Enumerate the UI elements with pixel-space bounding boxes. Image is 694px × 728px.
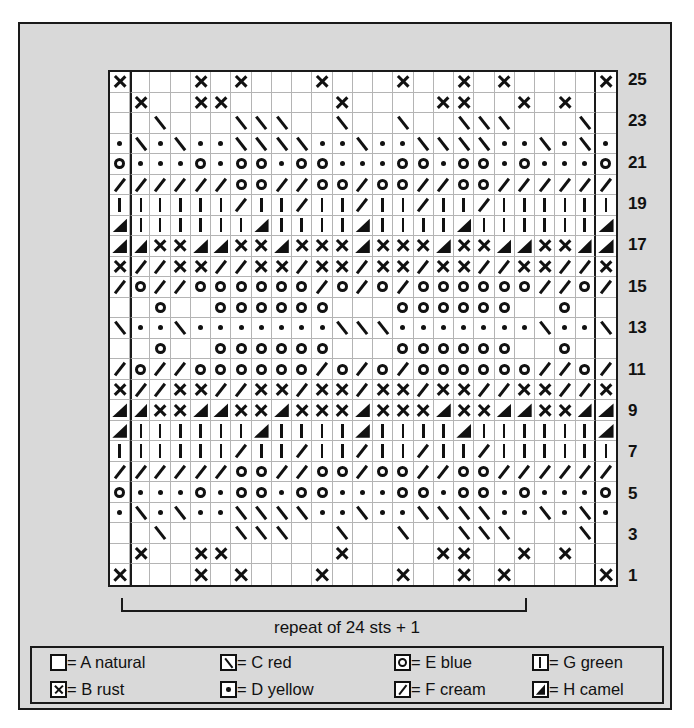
grid-cell-r6-c23: [555, 462, 575, 483]
backslash-icon: [474, 134, 493, 154]
grid-cell-r21-c9: [272, 154, 292, 175]
backslash-icon: [272, 523, 291, 543]
cross-x-icon: [231, 564, 250, 585]
vertical-bar-icon: [110, 441, 129, 461]
dot-icon: [555, 134, 574, 154]
grid-cell-r1-c18: [454, 564, 474, 585]
grid-cell-r13-c18: [454, 318, 474, 339]
grid-cell-r12-c12: [333, 339, 353, 360]
grid-cell-r21-c16: [414, 154, 434, 175]
grid-cell-r6-c19: [474, 462, 494, 483]
grid-cell-r4-c5: [191, 503, 211, 524]
grid-cell-r5-c21: [515, 482, 535, 503]
grid-cell-r6-c17: [434, 462, 454, 483]
forward-slash-icon: [231, 195, 250, 215]
grid-cell-r18-c13: [353, 216, 373, 237]
grid-cell-r8-c17: [434, 421, 454, 442]
grid-cell-r11-c2: [130, 359, 150, 380]
grid-cell-r14-c23: [555, 298, 575, 319]
dot-icon: [333, 482, 352, 502]
vertical-bar-icon: [393, 441, 412, 461]
open-circle-icon: [211, 298, 230, 318]
grid-cell-r4-c11: [312, 503, 332, 524]
grid-cell-r10-c12: [333, 380, 353, 401]
grid-cell-r8-c1: [110, 421, 130, 442]
vertical-bar-icon: [596, 195, 616, 215]
grid-cell-r20-c17: [434, 175, 454, 196]
grid-cell-r19-c16: [414, 195, 434, 216]
cross-x-icon: [292, 236, 311, 256]
grid-cell-r22-c18: [454, 134, 474, 155]
grid-cell-r14-c5: [191, 298, 211, 319]
grid-cell-r23-c20: [495, 113, 515, 134]
open-circle-icon: [252, 462, 271, 482]
grid-cell-r16-c6: [211, 257, 231, 278]
dot-icon: [495, 318, 514, 338]
grid-cell-r6-c14: [373, 462, 393, 483]
forward-slash-icon: [576, 257, 594, 277]
filled-triangle-icon: [596, 421, 616, 441]
grid-cell-r3-c4: [171, 523, 191, 544]
backslash-icon: [252, 113, 271, 133]
grid-cell-r18-c24: [576, 216, 596, 237]
grid-cell-r12-c16: [414, 339, 434, 360]
cross-x-icon: [110, 257, 129, 277]
grid-cell-r13-c14: [373, 318, 393, 339]
grid-cell-r17-c21: [515, 236, 535, 257]
cross-x-icon: [231, 400, 250, 420]
grid-cell-r15-c5: [191, 277, 211, 298]
grid-cell-r10-c17: [434, 380, 454, 401]
vertical-bar-icon: [231, 421, 250, 441]
grid-cell-r18-c22: [535, 216, 555, 237]
grid-cell-r22-c20: [495, 134, 515, 155]
grid-cell-r12-c17: [434, 339, 454, 360]
filled-triangle-icon: [211, 400, 230, 420]
open-circle-icon: [132, 277, 149, 297]
vertical-bar-icon: [555, 216, 574, 236]
grid-cell-r1-c1: [110, 564, 130, 585]
grid-cell-r17-c10: [292, 236, 312, 257]
cross-x-icon: [495, 72, 514, 92]
open-circle-icon: [110, 154, 129, 174]
forward-slash-icon: [535, 359, 554, 379]
legend-item-c: = C red: [220, 653, 292, 672]
grid-cell-r2-c4: [171, 544, 191, 565]
grid-cell-r25-c25: [596, 72, 616, 93]
open-circle-icon: [191, 154, 210, 174]
vertical-bar-icon: [191, 421, 210, 441]
grid-cell-r10-c18: [454, 380, 474, 401]
grid-cell-r9-c22: [535, 400, 555, 421]
grid-cell-r11-c22: [535, 359, 555, 380]
backslash-icon: [333, 523, 352, 543]
grid-cell-r10-c6: [211, 380, 231, 401]
open-circle-icon: [495, 339, 514, 359]
forward-slash-icon: [555, 380, 574, 400]
forward-slash-icon: [171, 277, 190, 297]
open-circle-icon: [393, 175, 412, 195]
legend-label-b: = B rust: [67, 680, 124, 699]
grid-cell-r19-c1: [110, 195, 130, 216]
grid-cell-r14-c2: [130, 298, 150, 319]
grid-cell-r1-c19: [474, 564, 494, 585]
grid-cell-r5-c23: [555, 482, 575, 503]
open-circle-icon: [373, 359, 392, 379]
grid-cell-r22-c22: [535, 134, 555, 155]
grid-cell-r14-c1: [110, 298, 130, 319]
vertical-bar-icon: [191, 216, 210, 236]
grid-cell-r10-c1: [110, 380, 130, 401]
grid-cell-r1-c17: [434, 564, 454, 585]
grid-cell-r2-c11: [312, 544, 332, 565]
vertical-bar-icon: [576, 421, 594, 441]
grid-cell-r10-c8: [252, 380, 272, 401]
legend-swatch-b: [50, 681, 67, 698]
grid-cell-r22-c8: [252, 134, 272, 155]
grid-cell-r14-c10: [292, 298, 312, 319]
vertical-bar-icon: [576, 195, 594, 215]
grid-cell-r1-c16: [414, 564, 434, 585]
repeat-bracket: [121, 598, 527, 612]
open-circle-icon: [211, 339, 230, 359]
grid-cell-r3-c12: [333, 523, 353, 544]
forward-slash-icon: [393, 277, 412, 297]
cross-x-icon: [454, 72, 473, 92]
grid-cell-r23-c24: [576, 113, 596, 134]
